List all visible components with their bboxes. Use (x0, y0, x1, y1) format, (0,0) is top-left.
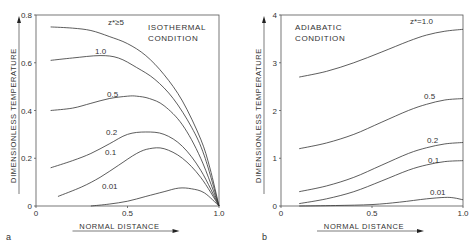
series-line-0.01 (299, 197, 463, 206)
x-tick-label: 0.5 (366, 209, 378, 218)
y-tick-label: 0 (273, 202, 278, 211)
arrow-icon (262, 16, 266, 23)
series-label: 0.2 (106, 128, 118, 137)
y-axis-label: DIMENSIONLESS TEMPERATURE (254, 48, 263, 183)
panel-label: a (6, 232, 11, 242)
series-label: z*=1.0 (410, 17, 433, 26)
chart-title: ADIABATIC (295, 23, 342, 32)
series-label: 0.1 (428, 156, 440, 165)
y-tick-label: 3 (273, 59, 278, 68)
x-tick-label: 0 (34, 209, 39, 218)
y-tick-label: 2 (273, 107, 278, 116)
figure: 00.20.40.60.800.51.0NORMAL DISTANCEDIMEN… (0, 0, 476, 250)
series-label: 0.5 (424, 92, 436, 101)
series-line-0.5 (299, 99, 463, 149)
series-label: 0.01 (430, 188, 446, 197)
chart-panel-a: 00.20.40.60.800.51.0NORMAL DISTANCEDIMEN… (6, 11, 225, 242)
y-tick-label: 0.8 (21, 11, 33, 20)
y-tick-label: 4 (273, 11, 278, 20)
x-tick-label: 1.0 (457, 209, 469, 218)
plot-frame (281, 15, 463, 206)
series-label: 0.5 (107, 90, 119, 99)
y-tick-label: 0 (28, 202, 33, 211)
arrow-icon (173, 229, 180, 233)
y-tick-label: 0.4 (21, 107, 33, 116)
panel-label: b (262, 232, 267, 242)
arrow-icon (417, 229, 424, 233)
series-label: z*≥5 (108, 18, 125, 27)
series-line-0.1 (58, 148, 219, 206)
series-line-0.2 (299, 142, 463, 191)
y-tick-label: 1 (273, 154, 278, 163)
chart-panel-b: 0123400.51.0NORMAL DISTANCEDIMENSIONLESS… (254, 11, 469, 242)
x-tick-label: 1.0 (213, 209, 225, 218)
x-axis-label: NORMAL DISTANCE (324, 222, 404, 231)
chart-title: ISOTHERMAL (148, 23, 206, 32)
series-line-0.1 (299, 161, 463, 204)
series-label: 0.01 (102, 182, 118, 191)
series-line-z*≥5 (51, 27, 219, 206)
x-tick-label: 0.5 (122, 209, 134, 218)
chart-title: CONDITION (148, 34, 198, 43)
chart-title: CONDITION (295, 34, 345, 43)
series-label: 0.1 (105, 148, 117, 157)
series-label: 0.2 (427, 136, 439, 145)
series-label: 1.0 (95, 47, 107, 56)
y-axis-label: DIMENSIONLESS TEMPERATURE (9, 48, 18, 183)
y-tick-label: 0.6 (21, 59, 33, 68)
x-tick-label: 0 (279, 209, 284, 218)
y-tick-label: 0.2 (21, 154, 33, 163)
series-line-1.0 (51, 56, 219, 206)
x-axis-label: NORMAL DISTANCE (79, 222, 159, 231)
